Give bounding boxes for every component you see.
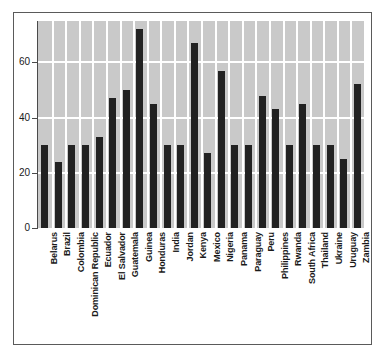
y-axis-tick: [32, 118, 37, 119]
bar: [150, 104, 157, 228]
bar: [218, 71, 225, 228]
y-axis-tick-label-text: 60: [19, 57, 30, 67]
x-axis-category-label: Dominican Republic: [90, 232, 100, 317]
gridline-vertical: [65, 21, 67, 228]
y-axis-tick-label: 0: [8, 223, 30, 233]
x-axis-category-label: Philippines: [280, 232, 290, 279]
bar: [286, 145, 293, 228]
bar: [68, 145, 75, 228]
gridline-vertical: [215, 21, 217, 228]
y-axis-tick: [32, 228, 37, 229]
x-axis-category-label: Belarus: [49, 232, 59, 264]
gridline-vertical: [255, 21, 257, 228]
bar: [82, 145, 89, 228]
x-axis-category-label: Guinea: [144, 232, 154, 262]
y-axis-tick-label-text: 20: [19, 168, 30, 178]
gridline-vertical: [310, 21, 312, 228]
bar: [55, 162, 62, 228]
x-axis-category-label: Uruguay: [348, 232, 358, 268]
x-axis-category-label: Colombia: [76, 232, 86, 272]
x-axis-category-label: Ecuador: [103, 232, 113, 267]
gridline-vertical: [106, 21, 108, 228]
x-axis-category-label: El Salvador: [117, 232, 127, 280]
gridline-vertical: [323, 21, 325, 228]
gridline-vertical: [147, 21, 149, 228]
gridline-vertical: [242, 21, 244, 228]
gridline-vertical: [269, 21, 271, 228]
gridline-vertical: [337, 21, 339, 228]
gridline-vertical: [228, 21, 230, 228]
x-axis-category-label: Thailand: [320, 232, 330, 268]
x-axis-category-label: Ukraine: [334, 232, 344, 264]
gridline-vertical: [201, 21, 203, 228]
bar: [354, 84, 361, 228]
x-axis-category-label: Peru: [266, 232, 276, 252]
gridline-vertical: [296, 21, 298, 228]
bar: [231, 145, 238, 228]
x-axis-category-label: Nigeria: [225, 232, 235, 262]
x-axis-category-label: India: [171, 232, 181, 253]
gridline-vertical: [133, 21, 135, 228]
bar: [164, 145, 171, 228]
bar: [299, 104, 306, 228]
y-axis-tick-label: 60: [8, 57, 30, 67]
x-axis-category-label: Jordan: [185, 232, 195, 261]
bar: [136, 29, 143, 228]
plot-area: [38, 21, 364, 228]
bar: [41, 145, 48, 228]
y-axis-tick-label-text: 40: [19, 113, 30, 123]
y-axis-tick: [32, 173, 37, 174]
x-axis-category-label: Rwanda: [293, 232, 303, 266]
gridline-vertical: [52, 21, 54, 228]
bar: [272, 109, 279, 228]
x-axis-category-label: Panama: [239, 232, 249, 266]
bar: [327, 145, 334, 228]
bar: [259, 96, 266, 228]
x-axis-category-label: Honduras: [157, 232, 167, 273]
bar-chart: 0204060BelarusBrazilColombiaDominican Re…: [0, 0, 387, 364]
x-axis-category-label: Guatemala: [130, 232, 140, 277]
bar: [123, 90, 130, 228]
bar: [340, 159, 347, 228]
gridline-vertical: [92, 21, 94, 228]
bar: [109, 98, 116, 228]
gridline-vertical: [187, 21, 189, 228]
bar: [191, 43, 198, 228]
bar: [177, 145, 184, 228]
y-axis-tick-label: 20: [8, 168, 30, 178]
x-axis-category-label: Mexico: [212, 232, 222, 262]
gridline-vertical: [120, 21, 122, 228]
y-axis-tick-label: 40: [8, 113, 30, 123]
y-axis-line: [37, 21, 38, 229]
x-axis-category-label: Kenya: [198, 232, 208, 259]
x-axis-category-label: Zambia: [361, 232, 371, 263]
x-axis-category-label: Brazil: [62, 232, 72, 256]
bar: [96, 137, 103, 228]
chart-figure: 0204060BelarusBrazilColombiaDominican Re…: [0, 0, 387, 364]
gridline-vertical: [350, 21, 352, 228]
x-axis-category-label: South Africa: [307, 232, 317, 284]
gridline-vertical: [160, 21, 162, 228]
gridline-vertical: [79, 21, 81, 228]
y-axis-tick: [32, 62, 37, 63]
y-axis-tick-label-text: 0: [24, 223, 30, 233]
gridline-vertical: [283, 21, 285, 228]
bar: [313, 145, 320, 228]
x-axis-category-label: Paraguay: [253, 232, 263, 272]
gridline-vertical: [174, 21, 176, 228]
bar: [204, 153, 211, 228]
bar: [245, 145, 252, 228]
